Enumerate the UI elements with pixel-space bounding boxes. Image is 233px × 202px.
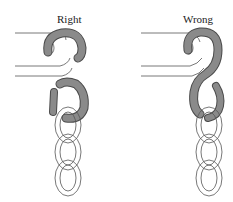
strap-icon: [141, 33, 204, 76]
panel-wrong: Wrong: [116, 0, 233, 202]
s-hook-upper-icon: [48, 33, 82, 58]
right-hook-illustration: [0, 0, 116, 202]
strap-icon: [15, 33, 72, 76]
s-hook-lower-icon: [53, 82, 84, 118]
wrong-hook-illustration: [116, 0, 233, 202]
panel-right: Right: [0, 0, 116, 202]
